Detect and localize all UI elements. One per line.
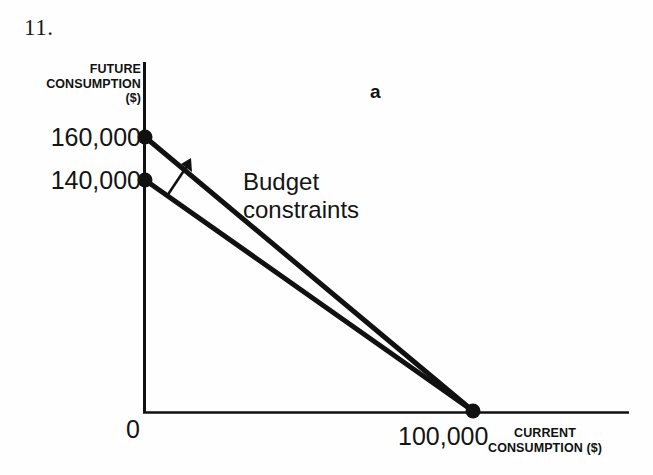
y-tick-label-140000: 140,000 bbox=[51, 168, 141, 193]
x-axis-label-line-1: CURRENT bbox=[488, 426, 602, 441]
x-tick-label-100000: 100,000 bbox=[398, 424, 488, 449]
panel-letter: a bbox=[370, 82, 381, 101]
y-axis-label: FUTURE CONSUMPTION ($) bbox=[46, 62, 141, 106]
y-axis-label-line-2: CONSUMPTION bbox=[46, 77, 141, 91]
y-axis-label-line-1: FUTURE bbox=[90, 62, 141, 76]
y-tick-label-160000: 160,000 bbox=[51, 125, 141, 150]
x-axis-label-line-2: CONSUMPTION ($) bbox=[488, 441, 602, 456]
y-axis-label-line-3: ($) bbox=[125, 91, 141, 105]
budget-constraints-annotation: Budget constraints bbox=[243, 168, 359, 224]
annotation-line-2: constraints bbox=[243, 196, 359, 224]
x-axis-label: CURRENT CONSUMPTION ($) bbox=[488, 426, 602, 455]
annotation-line-1: Budget bbox=[243, 168, 359, 196]
origin-tick-label: 0 bbox=[126, 417, 140, 442]
point-x-intercept-100000 bbox=[466, 404, 481, 419]
figure-container: 11. FUTURE CONSUMPTION ($) CURRENT CONSU… bbox=[0, 0, 653, 475]
